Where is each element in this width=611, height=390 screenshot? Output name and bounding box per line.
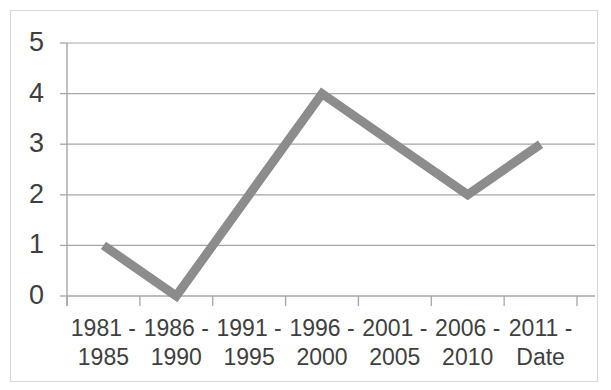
- x-axis-tick-label: 2011 - Date: [504, 314, 577, 372]
- x-axis-tick-label: 1996 - 2000: [286, 314, 359, 372]
- y-axis-tick-label: 5: [14, 29, 44, 56]
- y-axis-tick-label: 0: [14, 282, 44, 309]
- gridlines-group: [67, 43, 595, 296]
- y-axis-tick-label: 4: [14, 80, 44, 107]
- chart-screenshot: 543210 1981 - 19851986 - 19901991 - 1995…: [0, 0, 611, 390]
- y-axis-tick-label: 3: [14, 130, 44, 157]
- x-axis-tick-label: 1981 - 1985: [67, 314, 140, 372]
- x-axis-tick-label: 1991 - 1995: [213, 314, 286, 372]
- x-axis-tick-label: 2001 - 2005: [358, 314, 431, 372]
- x-axis-tick-label: 2006 - 2010: [431, 314, 504, 372]
- y-axis-tick-label: 2: [14, 181, 44, 208]
- x-axis-tick-label: 1986 - 1990: [140, 314, 213, 372]
- y-axis-tick-label: 1: [14, 231, 44, 258]
